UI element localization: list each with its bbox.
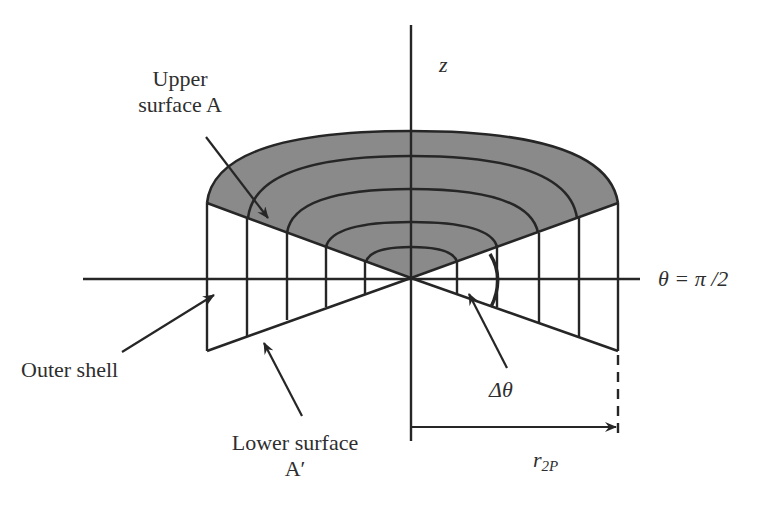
radius-label: r2P — [533, 447, 558, 479]
lower-surface-label-line2: A′ — [200, 456, 390, 482]
outer-shell-pointer — [122, 295, 214, 352]
upper-surface-label-line1: Upper — [115, 66, 245, 92]
radius-label-sub: 2P — [542, 458, 559, 474]
lower-surface-label: Lower surface A′ — [200, 430, 390, 482]
lower-surface-label-line1: Lower surface — [200, 430, 390, 456]
outer-shell-label: Outer shell — [21, 357, 118, 383]
upper-surface-label-line2: surface A — [115, 92, 245, 118]
upper-surface-label: Upper surface A — [115, 66, 245, 118]
theta-axis-label: θ = π /2 — [658, 266, 728, 292]
radius-label-main: r — [533, 447, 542, 472]
z-axis-label: z — [439, 52, 448, 78]
upper-surface-fill — [207, 131, 618, 278]
lower-surface-pointer — [264, 343, 302, 416]
delta-theta-label: Δθ — [489, 377, 513, 403]
lower-surface-edges — [207, 278, 618, 351]
